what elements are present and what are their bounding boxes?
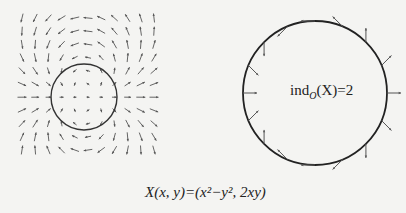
arrowhead: [34, 146, 36, 148]
arrowhead: [34, 46, 36, 48]
arrowhead: [24, 96, 26, 98]
left-vector-field: [18, 14, 159, 155]
arrowhead: [140, 138, 142, 141]
arrowhead: [399, 92, 401, 94]
figure-caption: X(x, y)=(x²−y², 2xy): [145, 184, 266, 201]
arrowhead: [143, 96, 145, 98]
arrowhead: [74, 96, 76, 98]
arrowhead: [365, 156, 367, 158]
arrowhead: [156, 96, 158, 98]
arrowhead: [61, 96, 63, 98]
arrowhead: [86, 70, 89, 72]
arrowhead: [127, 139, 129, 141]
arrowhead: [263, 54, 265, 56]
arrowhead: [140, 40, 142, 42]
arrowhead: [129, 96, 131, 98]
arrowhead: [21, 33, 23, 35]
arrowhead: [140, 152, 142, 154]
arrowhead: [263, 130, 265, 132]
arrowhead: [101, 96, 103, 98]
index-label: indO(X)=2: [290, 82, 353, 101]
arrowhead: [139, 14, 141, 17]
arrowhead: [74, 83, 76, 86]
vector-field-figure: [0, 0, 406, 213]
arrowhead: [71, 148, 74, 150]
arrowhead: [365, 28, 367, 30]
arrowhead: [255, 92, 257, 94]
arrowhead: [71, 44, 74, 46]
arrowhead: [37, 96, 39, 98]
arrowhead: [153, 27, 155, 29]
